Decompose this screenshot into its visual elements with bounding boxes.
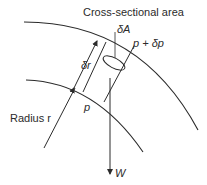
delta-r-label: δr — [81, 60, 91, 71]
element-right-side — [104, 46, 134, 102]
pressure-top-label: p + δp — [133, 38, 164, 49]
pressure-bottom-label: p — [84, 102, 90, 113]
diagram-drawing — [0, 0, 207, 185]
radius-label: Radius r — [10, 113, 51, 124]
delta-a-label: δA — [117, 24, 130, 35]
weight-label: W — [115, 168, 125, 179]
cross-section-ellipse — [101, 53, 127, 73]
cross-section-label: Cross-sectional area — [83, 7, 184, 18]
diagram-canvas: Cross-sectional area δA p + δp δr p Radi… — [0, 0, 207, 185]
